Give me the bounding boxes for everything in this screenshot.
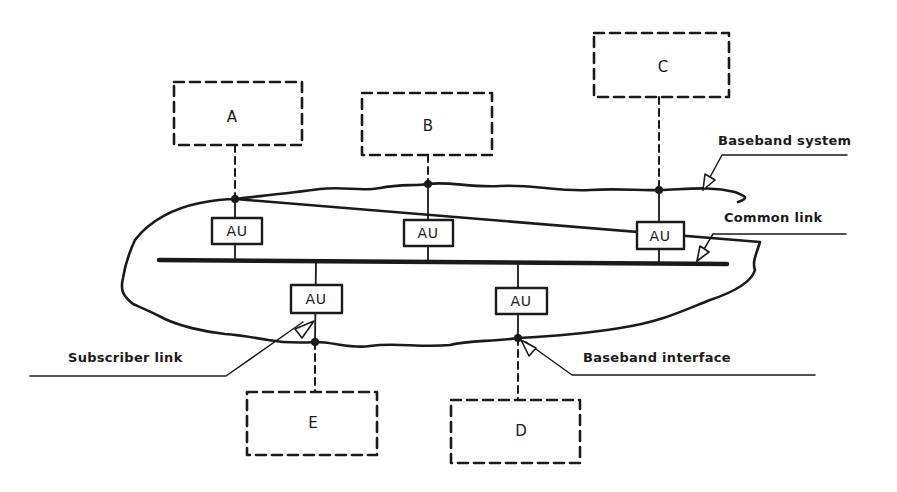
baseband-system-leader (703, 155, 847, 190)
node-label-d: D (515, 422, 527, 440)
interface-dot-e (311, 338, 319, 346)
interface-dot-b (424, 180, 432, 188)
baseband-interface-label: Baseband interface (583, 350, 731, 365)
diagram-canvas (0, 0, 897, 492)
au-label-d: AU (511, 293, 532, 309)
subscriber-link-label: Subscriber link (68, 350, 183, 365)
common-link-arrowhead (697, 246, 709, 261)
au-label-c: AU (650, 228, 671, 244)
subscriber-link-leader (30, 322, 303, 376)
interface-dot-d (514, 334, 522, 342)
node-label-c: C (658, 58, 668, 76)
common-link-label: Common link (724, 210, 822, 225)
au-label-a: AU (227, 223, 248, 239)
node-label-b: B (423, 117, 433, 135)
node-label-e: E (308, 414, 317, 432)
baseband-system-label: Baseband system (718, 133, 851, 148)
interface-dot-c (655, 186, 663, 194)
node-label-a: A (227, 108, 237, 126)
node-box-a (174, 82, 302, 145)
au-label-b: AU (418, 225, 439, 241)
subscriber-link-arrowhead (295, 321, 314, 338)
interface-dot-a (231, 195, 239, 203)
au-label-e: AU (306, 291, 327, 307)
common-link-bus (159, 260, 727, 264)
baseband-interface-arrowhead (521, 340, 536, 356)
